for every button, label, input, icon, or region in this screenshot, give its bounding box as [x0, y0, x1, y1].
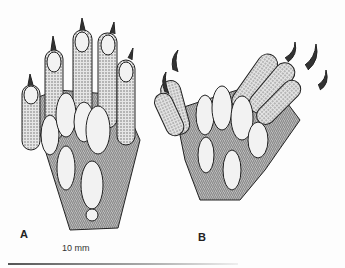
- paw-a: [22, 18, 140, 230]
- panel-label-b: B: [198, 231, 206, 243]
- scale-label: 10 mm: [62, 243, 90, 253]
- paw-illustrations: [0, 0, 345, 268]
- paw-b: [152, 42, 328, 200]
- divider-line: [8, 263, 238, 265]
- panel-label-a: A: [20, 228, 28, 240]
- figure: A B 10 mm: [0, 0, 345, 268]
